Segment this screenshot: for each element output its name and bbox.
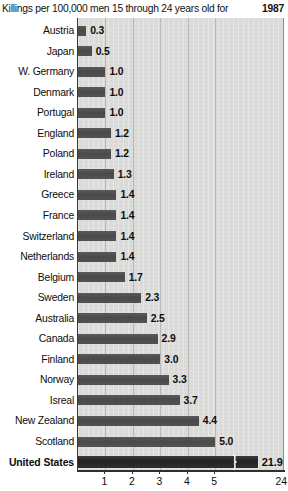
bar-australia — [78, 313, 147, 323]
table-row: Greece1.4 — [0, 184, 288, 205]
bar-value-australia: 2.5 — [151, 308, 165, 329]
bar-sweden — [78, 293, 141, 303]
table-row: France1.4 — [0, 205, 288, 226]
bar-canada — [78, 334, 158, 344]
bar-value-france: 1.4 — [120, 205, 134, 226]
bar-japan — [78, 46, 92, 56]
category-label-greece: Greece — [0, 184, 74, 205]
bar-value-w-germany: 1.0 — [109, 61, 123, 82]
year-label: 1987 — [262, 3, 285, 15]
bar-value-belgium: 1.7 — [129, 267, 143, 288]
bar-portugal — [78, 108, 105, 118]
table-row: Belgium1.7 — [0, 267, 288, 288]
category-label-england: England — [0, 123, 74, 144]
table-row: Denmark1.0 — [0, 82, 288, 103]
bar-norway — [78, 375, 169, 385]
category-label-japan: Japan — [0, 41, 74, 62]
tick-label-3: 3 — [147, 474, 171, 489]
bar-denmark — [78, 87, 105, 97]
table-row: Australia2.5 — [0, 308, 288, 329]
bar-value-england: 1.2 — [115, 123, 129, 144]
bar-value-finland: 3.0 — [164, 349, 178, 370]
tick-label-1: 1 — [92, 474, 116, 489]
table-row: Canada2.9 — [0, 328, 288, 349]
table-row: England1.2 — [0, 123, 288, 144]
category-label-w-germany: W. Germany — [0, 61, 74, 82]
tick-label-5: 5 — [202, 474, 226, 489]
table-row: Scotland5.0 — [0, 431, 288, 452]
bar-isreal — [78, 395, 180, 405]
bar-switzerland — [78, 231, 116, 241]
tick-label-4: 4 — [175, 474, 199, 489]
table-row: Finland3.0 — [0, 349, 288, 370]
category-label-netherlands: Netherlands — [0, 246, 74, 267]
category-label-france: France — [0, 205, 74, 226]
bar-scotland — [78, 437, 215, 447]
table-row: Sweden2.3 — [0, 287, 288, 308]
bar-value-ireland: 1.3 — [118, 164, 132, 185]
category-label-united-states: United States — [0, 452, 74, 473]
category-label-portugal: Portugal — [0, 102, 74, 123]
category-label-denmark: Denmark — [0, 82, 74, 103]
table-row: Switzerland1.4 — [0, 226, 288, 247]
category-label-poland: Poland — [0, 143, 74, 164]
category-label-finland: Finland — [0, 349, 74, 370]
chart-header: Killings per 100,000 men 15 through 24 y… — [0, 0, 288, 18]
bar-value-portugal: 1.0 — [109, 102, 123, 123]
bar-ireland — [78, 169, 114, 179]
table-row: Japan0.5 — [0, 41, 288, 62]
bar-value-netherlands: 1.4 — [120, 246, 134, 267]
bar-value-austria: 0.3 — [90, 20, 104, 41]
table-row: Portugal1.0 — [0, 102, 288, 123]
bar-value-norway: 3.3 — [173, 369, 187, 390]
page-title: Killings per 100,000 men 15 through 24 y… — [2, 3, 228, 15]
category-label-austria: Austria — [0, 20, 74, 41]
bar-value-japan: 0.5 — [96, 41, 110, 62]
bar-value-canada: 2.9 — [162, 328, 176, 349]
bar-france — [78, 210, 116, 220]
table-row: Poland1.2 — [0, 143, 288, 164]
table-row: Ireland1.3 — [0, 164, 288, 185]
bar-value-greece: 1.4 — [120, 184, 134, 205]
category-label-ireland: Ireland — [0, 164, 74, 185]
bar-value-isreal: 3.7 — [184, 390, 198, 411]
category-label-isreal: Isreal — [0, 390, 74, 411]
category-label-belgium: Belgium — [0, 267, 74, 288]
category-label-norway: Norway — [0, 369, 74, 390]
bar-greece — [78, 190, 116, 200]
category-label-scotland: Scotland — [0, 431, 74, 452]
category-label-switzerland: Switzerland — [0, 226, 74, 247]
bar-netherlands — [78, 252, 116, 262]
table-row: New Zealand4.4 — [0, 410, 288, 431]
bar-belgium — [78, 272, 125, 282]
table-row: Austria0.3 — [0, 20, 288, 41]
bar-england — [78, 128, 111, 138]
table-row: Norway3.3 — [0, 369, 288, 390]
bar-value-denmark: 1.0 — [109, 82, 123, 103]
table-row: Isreal3.7 — [0, 390, 288, 411]
tick-label-2: 2 — [120, 474, 144, 489]
bar-value-poland: 1.2 — [115, 143, 129, 164]
bar-new-zealand — [78, 416, 199, 426]
tick-label-24: 24 — [257, 474, 287, 489]
bar-value-sweden: 2.3 — [145, 287, 159, 308]
bar-austria — [78, 26, 86, 36]
bar-value-scotland: 5.0 — [219, 431, 233, 452]
category-label-sweden: Sweden — [0, 287, 74, 308]
bar-finland — [78, 354, 160, 364]
category-label-australia: Australia — [0, 308, 74, 329]
bar-w-germany — [78, 67, 105, 77]
table-row: Netherlands1.4 — [0, 246, 288, 267]
category-label-new-zealand: New Zealand — [0, 410, 74, 431]
category-label-canada: Canada — [0, 328, 74, 349]
table-row: W. Germany1.0 — [0, 61, 288, 82]
bar-value-switzerland: 1.4 — [120, 226, 134, 247]
bar-value-new-zealand: 4.4 — [203, 410, 217, 431]
axis-break-icon — [231, 454, 240, 470]
bar-poland — [78, 149, 111, 159]
x-axis-line — [77, 470, 285, 472]
